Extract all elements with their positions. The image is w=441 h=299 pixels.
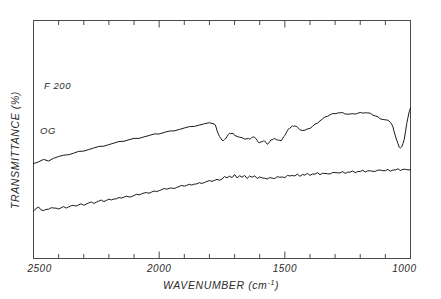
y-axis-label: TRANSMITTANCE (%) xyxy=(9,91,21,209)
x-tick-label: 1000 xyxy=(392,263,416,274)
bottom-axis-ticks xyxy=(34,252,411,259)
trace-og xyxy=(34,169,411,211)
x-axis-label: WAVENUMBER (cm-1) xyxy=(163,279,279,291)
y-axis-label-group: TRANSMITTANCE (%) xyxy=(9,91,21,209)
series-label-f200: F 200 xyxy=(44,80,71,91)
series-label-og: OG xyxy=(40,125,56,136)
data-traces-group xyxy=(34,108,411,211)
trace-f-200 xyxy=(34,108,411,164)
series-annotations: F 200 OG xyxy=(40,80,71,136)
chart-svg: 2500200015001000 WAVENUMBER (cm-1) TRANS… xyxy=(0,0,441,299)
ftir-spectrum-figure: 2500200015001000 WAVENUMBER (cm-1) TRANS… xyxy=(0,0,441,299)
top-axis-ticks xyxy=(34,21,411,28)
x-tick-label: 2500 xyxy=(27,263,52,274)
x-axis-label-group: WAVENUMBER (cm-1) xyxy=(163,279,279,291)
x-tick-label: 2000 xyxy=(146,263,171,274)
x-tick-labels: 2500200015001000 xyxy=(27,263,417,274)
x-tick-label: 1500 xyxy=(273,263,297,274)
